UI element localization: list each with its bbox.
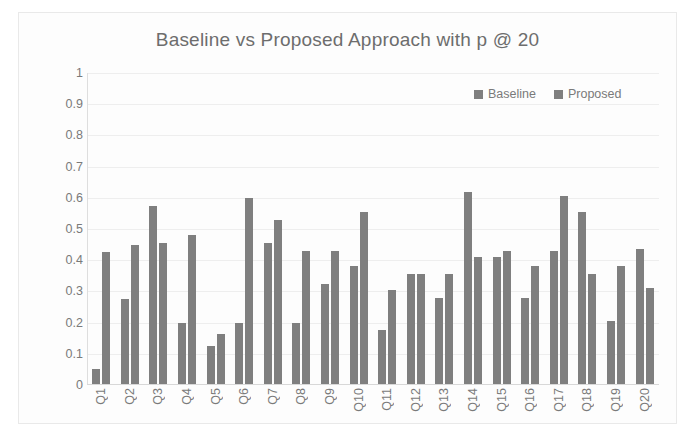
x-axis-tick-label: Q1 <box>94 388 108 405</box>
bar[interactable] <box>235 323 243 385</box>
x-axis-tick: Q20 <box>630 388 659 424</box>
bar[interactable] <box>331 251 339 385</box>
bar-group <box>144 73 173 385</box>
bar[interactable] <box>378 330 386 385</box>
bar[interactable] <box>121 299 129 385</box>
bar-group <box>402 73 431 385</box>
x-axis-tick: Q8 <box>287 388 316 424</box>
bar-group <box>87 73 116 385</box>
bar-group <box>545 73 574 385</box>
x-axis-tick: Q3 <box>144 388 173 424</box>
bar[interactable] <box>188 235 196 385</box>
bar-group <box>116 73 145 385</box>
bar[interactable] <box>360 212 368 385</box>
x-axis-tick: Q2 <box>116 388 145 424</box>
x-axis-tick-label: Q13 <box>437 388 451 412</box>
bar[interactable] <box>617 266 625 385</box>
bar[interactable] <box>588 274 596 385</box>
bar[interactable] <box>464 192 472 385</box>
bar[interactable] <box>636 249 644 385</box>
x-axis-tick: Q5 <box>201 388 230 424</box>
y-axis-tick-labels: 00.10.20.30.40.50.60.70.80.91 <box>43 73 83 385</box>
x-axis-tick-label: Q11 <box>380 388 394 411</box>
x-axis-tick-label: Q5 <box>209 388 223 405</box>
x-axis-tick: Q4 <box>173 388 202 424</box>
bar[interactable] <box>445 274 453 385</box>
bar-group <box>373 73 402 385</box>
bar-group <box>259 73 288 385</box>
bar-group <box>173 73 202 385</box>
x-axis-tick-label: Q14 <box>466 388 480 412</box>
y-axis-tick-label: 0.9 <box>66 97 83 111</box>
x-axis-tick: Q6 <box>230 388 259 424</box>
x-axis-tick: Q14 <box>459 388 488 424</box>
bar[interactable] <box>578 212 586 385</box>
x-axis-tick: Q18 <box>573 388 602 424</box>
x-axis-tick: Q19 <box>602 388 631 424</box>
bar[interactable] <box>560 196 568 385</box>
bar[interactable] <box>131 245 139 385</box>
plot-area <box>87 73 659 385</box>
bar[interactable] <box>302 251 310 385</box>
bar[interactable] <box>292 323 300 385</box>
x-axis-tick-label: Q17 <box>552 388 566 412</box>
bar[interactable] <box>388 290 396 385</box>
x-axis-tick-label: Q12 <box>409 388 423 412</box>
x-axis-tick: Q12 <box>402 388 431 424</box>
x-axis-tick: Q13 <box>430 388 459 424</box>
bar-group <box>230 73 259 385</box>
bar[interactable] <box>607 321 615 385</box>
y-axis-tick-label: 0.8 <box>66 128 83 142</box>
y-axis-tick-label: 0.5 <box>66 222 83 236</box>
bar[interactable] <box>92 369 100 385</box>
chart-card: Baseline vs Proposed Approach with p @ 2… <box>18 12 677 424</box>
bar[interactable] <box>407 274 415 385</box>
bar-group <box>487 73 516 385</box>
bar[interactable] <box>274 220 282 385</box>
bar[interactable] <box>264 243 272 385</box>
bar-group <box>430 73 459 385</box>
bar[interactable] <box>646 288 654 385</box>
x-axis-tick: Q11 <box>373 388 402 424</box>
y-axis-tick-label: 0.6 <box>66 191 83 205</box>
bar-group <box>316 73 345 385</box>
x-axis-tick: Q7 <box>259 388 288 424</box>
x-axis-tick-label: Q16 <box>523 388 537 412</box>
x-axis-tick-labels: Q1Q2Q3Q4Q5Q6Q7Q8Q9Q10Q11Q12Q13Q14Q15Q16Q… <box>87 388 659 424</box>
bar[interactable] <box>521 298 529 385</box>
y-axis-tick-label: 0.3 <box>66 284 83 298</box>
bar-group <box>630 73 659 385</box>
y-axis-tick-label: 0.7 <box>66 160 83 174</box>
x-axis-tick-label: Q3 <box>151 388 165 405</box>
bar[interactable] <box>474 257 482 385</box>
bar[interactable] <box>159 243 167 385</box>
bar-group <box>459 73 488 385</box>
bar[interactable] <box>417 274 425 385</box>
y-axis-tick-label: 0.1 <box>66 347 83 361</box>
bar[interactable] <box>217 334 225 385</box>
x-axis-tick-label: Q15 <box>495 388 509 412</box>
x-axis-tick: Q1 <box>87 388 116 424</box>
bar[interactable] <box>245 198 253 385</box>
bar[interactable] <box>321 284 329 385</box>
x-axis-tick-label: Q9 <box>323 388 337 405</box>
x-axis-tick: Q16 <box>516 388 545 424</box>
bar[interactable] <box>149 206 157 385</box>
bar[interactable] <box>435 298 443 385</box>
bar-group <box>573 73 602 385</box>
bar[interactable] <box>102 252 110 385</box>
x-axis-tick: Q15 <box>487 388 516 424</box>
bar[interactable] <box>207 346 215 385</box>
y-axis-tick-label: 1 <box>76 66 83 80</box>
bar[interactable] <box>493 257 501 385</box>
bar-group <box>287 73 316 385</box>
bar[interactable] <box>350 266 358 385</box>
bar[interactable] <box>178 323 186 385</box>
bar[interactable] <box>550 251 558 385</box>
bar[interactable] <box>503 251 511 385</box>
bar[interactable] <box>531 266 539 385</box>
x-axis-line <box>87 384 659 385</box>
bar-group <box>344 73 373 385</box>
x-axis-tick-label: Q19 <box>609 388 623 412</box>
bar-group <box>602 73 631 385</box>
